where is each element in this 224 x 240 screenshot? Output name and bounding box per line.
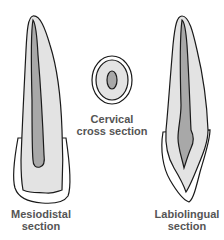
cervical-label-line1: Cervical — [74, 113, 150, 125]
mesiodistal-section-figure — [14, 16, 70, 203]
labiolingual-section-figure — [162, 16, 210, 202]
mesiodistal-label-line2: section — [6, 220, 76, 232]
cervical-cross-section-label: Cervical cross section — [74, 113, 150, 137]
cervical-label-line2: cross section — [74, 125, 150, 137]
labiolingual-section-label: Labiolingual section — [150, 208, 224, 232]
labiolingual-label-line2: section — [150, 220, 224, 232]
cross-section-pulp — [107, 71, 117, 89]
mesiodistal-section-label: Mesiodistal section — [6, 208, 76, 232]
cervical-cross-section-figure — [92, 56, 132, 104]
mesiodistal-label-line1: Mesiodistal — [6, 208, 76, 220]
labiolingual-label-line1: Labiolingual — [150, 208, 224, 220]
